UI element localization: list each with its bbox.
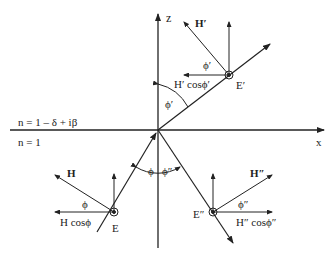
refracted-axis-angle-label: ϕ′: [165, 98, 173, 110]
normal-angle-reflected-label: ϕ″: [162, 165, 172, 177]
z-axis-label: z: [166, 11, 171, 25]
incident-ray: [97, 133, 156, 232]
lower-medium-label: n = 1: [18, 136, 41, 148]
refracted-angle-label: ϕ′: [203, 59, 211, 71]
incident-e-label: E: [112, 222, 119, 234]
upper-medium-label: n = 1 – δ + iβ: [18, 116, 78, 128]
refracted-projection-label: H′ cosϕ′: [174, 78, 210, 90]
normal-angle-incident-label: ϕ: [148, 165, 154, 177]
refracted-h-label: H′: [195, 17, 207, 29]
reflected-e-label: E″: [193, 208, 204, 220]
reflected-h-label: H″: [250, 167, 265, 179]
reflected-ray: [158, 130, 233, 243]
reflected-projection-label: H″ cosϕ″: [236, 216, 276, 228]
incident-projection-label: H cosϕ: [60, 216, 91, 228]
axes: [10, 14, 324, 248]
incident-angle-label: ϕ: [82, 198, 88, 210]
x-axis-label: x: [316, 136, 322, 148]
refracted-e-label: E′: [236, 79, 245, 91]
fresnel-diagram: z x n = 1 – δ + iβ n = 1 H′ ϕ′ H′ cosϕ′ …: [0, 0, 336, 255]
incident-h-label: H: [67, 167, 76, 179]
reflected-angle-label: ϕ″: [238, 198, 248, 210]
refracted-fields: [158, 22, 233, 107]
